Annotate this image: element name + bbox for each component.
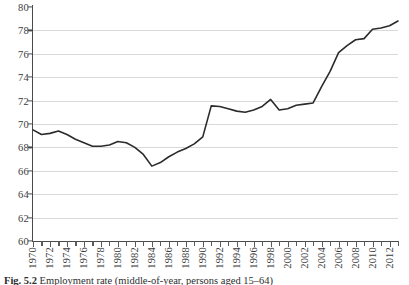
x-tick-label-1970: 1970 <box>28 247 39 269</box>
x-tick-mark-1999 <box>279 241 280 246</box>
x-tick-mark-1992 <box>220 241 221 247</box>
x-tick-mark-1980 <box>118 241 119 247</box>
x-tick-label-2012: 2012 <box>385 247 396 269</box>
x-tick-label-1978: 1978 <box>96 247 107 269</box>
x-tick-mark-2003 <box>313 241 314 246</box>
x-tick-mark-1973 <box>58 241 59 246</box>
x-tick-label-1994: 1994 <box>232 247 243 269</box>
x-tick-label-2000: 2000 <box>283 247 294 269</box>
x-tick-mark-1975 <box>75 241 76 246</box>
x-tick-mark-1989 <box>194 241 195 246</box>
x-tick-mark-1991 <box>211 241 212 246</box>
x-tick-mark-1974 <box>67 241 68 247</box>
x-tick-mark-2007 <box>347 241 348 246</box>
x-tick-mark-1979 <box>109 241 110 246</box>
x-tick-label-2006: 2006 <box>334 247 345 269</box>
x-tick-mark-1977 <box>92 241 93 246</box>
x-tick-mark-1985 <box>160 241 161 246</box>
x-tick-mark-1995 <box>245 241 246 246</box>
x-tick-label-1980: 1980 <box>113 247 124 269</box>
x-tick-mark-1987 <box>177 241 178 246</box>
x-tick-mark-2012 <box>390 241 391 247</box>
x-tick-label-1976: 1976 <box>79 247 90 269</box>
x-tick-label-1988: 1988 <box>181 247 192 269</box>
x-tick-mark-1997 <box>262 241 263 246</box>
figure-caption-label: Fig. 5.2 <box>4 275 37 285</box>
x-tick-mark-1970 <box>33 241 34 247</box>
x-tick-label-1998: 1998 <box>266 247 277 269</box>
x-tick-mark-2005 <box>330 241 331 246</box>
x-tick-mark-2011 <box>381 241 382 246</box>
x-tick-mark-2013 <box>398 241 399 246</box>
x-tick-mark-1988 <box>186 241 187 247</box>
x-tick-label-1974: 1974 <box>62 247 73 269</box>
x-tick-label-1972: 1972 <box>45 247 56 269</box>
x-tick-mark-1981 <box>126 241 127 246</box>
x-tick-mark-2010 <box>373 241 374 247</box>
x-tick-mark-1994 <box>237 241 238 247</box>
x-tick-mark-2009 <box>364 241 365 246</box>
figure-container: 6062646668707274767880 19701972197419761… <box>0 0 409 285</box>
x-tick-mark-1993 <box>228 241 229 246</box>
x-tick-label-1982: 1982 <box>130 247 141 269</box>
x-tick-mark-1971 <box>41 241 42 246</box>
x-tick-label-1986: 1986 <box>164 247 175 269</box>
x-tick-mark-1976 <box>84 241 85 247</box>
x-tick-mark-2008 <box>356 241 357 247</box>
x-tick-mark-2006 <box>339 241 340 247</box>
x-tick-mark-1984 <box>152 241 153 247</box>
x-tick-label-2004: 2004 <box>317 247 328 269</box>
figure-caption: Fig. 5.2 Employment rate (middle-of-year… <box>4 275 409 285</box>
x-tick-mark-1982 <box>135 241 136 247</box>
x-tick-mark-1990 <box>203 241 204 247</box>
x-tick-mark-1998 <box>271 241 272 247</box>
x-tick-mark-1983 <box>143 241 144 246</box>
x-tick-mark-2002 <box>305 241 306 247</box>
x-tick-label-2002: 2002 <box>300 247 311 269</box>
x-tick-label-2010: 2010 <box>368 247 379 269</box>
line-series-employment-rate <box>33 21 398 166</box>
x-tick-label-1992: 1992 <box>215 247 226 269</box>
x-tick-label-1984: 1984 <box>147 247 158 269</box>
x-tick-mark-1996 <box>254 241 255 247</box>
x-tick-mark-1972 <box>50 241 51 247</box>
x-tick-mark-2001 <box>296 241 297 246</box>
figure-caption-text: Employment rate (middle-of-year, persons… <box>40 275 273 285</box>
x-tick-mark-2004 <box>322 241 323 247</box>
x-tick-mark-1986 <box>169 241 170 247</box>
x-tick-mark-1978 <box>101 241 102 247</box>
x-tick-label-2008: 2008 <box>351 247 362 269</box>
x-tick-mark-2000 <box>288 241 289 247</box>
x-tick-label-1990: 1990 <box>198 247 209 269</box>
x-tick-label-1996: 1996 <box>249 247 260 269</box>
